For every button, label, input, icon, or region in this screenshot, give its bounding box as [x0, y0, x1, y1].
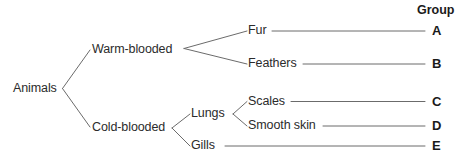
leaf-fur: Fur: [248, 24, 266, 37]
node-warm-blooded: Warm-blooded: [92, 43, 172, 56]
branch-cold-to-gills: [172, 128, 190, 146]
tree-branch-lines: [0, 0, 470, 164]
group-letter-e: E: [432, 139, 441, 152]
node-animals: Animals: [13, 82, 57, 95]
branch-lungs-to-scales: [233, 102, 247, 115]
group-letter-d: D: [432, 119, 441, 132]
classification-key-diagram: Animals Warm-blooded Cold-blooded Lungs …: [0, 0, 470, 164]
branch-lungs-to-smooth-skin: [233, 114, 247, 126]
branch-animals-to-cold-blooded: [63, 89, 91, 128]
group-letter-b: B: [432, 57, 441, 70]
branch-warm-to-fur: [184, 31, 247, 49]
group-letter-c: C: [432, 95, 441, 108]
leaf-scales: Scales: [248, 95, 285, 108]
group-column-header: Group: [417, 4, 455, 17]
node-gills: Gills: [191, 139, 215, 152]
leaf-feathers: Feathers: [248, 57, 297, 70]
group-letter-a: A: [432, 24, 441, 37]
leaf-smooth-skin: Smooth skin: [248, 119, 316, 132]
node-lungs: Lungs: [191, 107, 225, 120]
branch-warm-to-feathers: [184, 49, 247, 65]
branch-cold-to-lungs: [172, 114, 190, 128]
node-cold-blooded: Cold-blooded: [92, 121, 165, 134]
branch-animals-to-warm-blooded: [63, 50, 91, 89]
